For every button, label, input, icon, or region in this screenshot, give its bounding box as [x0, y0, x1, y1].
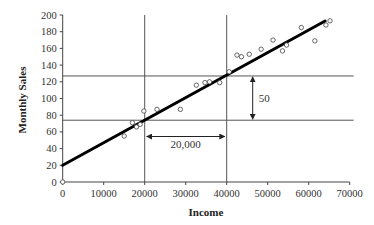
- data-point: [284, 43, 288, 47]
- data-point: [194, 83, 198, 87]
- y-tick-label: 160: [41, 43, 57, 54]
- y-axis-title: Monthly Sales: [16, 66, 28, 134]
- data-point: [239, 55, 243, 59]
- x-tick-label: 60000: [296, 188, 322, 199]
- annotation-label: 20,000: [171, 138, 202, 150]
- y-tick-label: 60: [46, 126, 57, 137]
- reference-lines: [63, 15, 354, 182]
- data-point: [122, 134, 126, 138]
- data-point: [280, 49, 284, 53]
- data-point: [247, 52, 251, 56]
- x-tick-label: 30000: [173, 188, 199, 199]
- y-tick-label: 0: [51, 177, 56, 188]
- data-point: [203, 80, 207, 84]
- data-point: [259, 47, 263, 51]
- data-point: [155, 107, 159, 111]
- data-point: [142, 109, 146, 113]
- x-tick-label: 0: [60, 188, 65, 199]
- data-point: [61, 180, 65, 184]
- y-tick-label: 180: [41, 26, 57, 37]
- y-tick-label: 20: [46, 160, 57, 171]
- data-point: [218, 80, 222, 84]
- tick-labels: 0204060801001201401601802000100002000030…: [41, 10, 363, 200]
- data-point: [328, 19, 332, 23]
- data-point: [313, 39, 317, 43]
- data-point: [207, 80, 211, 84]
- y-tick-label: 80: [46, 110, 57, 121]
- x-tick-label: 40000: [214, 188, 240, 199]
- data-point: [130, 121, 134, 125]
- x-tick-label: 50000: [255, 188, 281, 199]
- data-point: [235, 53, 239, 57]
- y-tick-label: 100: [41, 93, 57, 104]
- data-point: [227, 70, 231, 74]
- annotation-label: 50: [259, 92, 271, 104]
- x-axis-title: Income: [189, 206, 224, 218]
- y-tick-label: 200: [41, 10, 57, 21]
- axes: [60, 15, 350, 185]
- annotations: 20,00050: [147, 77, 271, 150]
- y-tick-label: 140: [41, 60, 57, 71]
- data-point: [271, 38, 275, 42]
- x-tick-label: 20000: [132, 188, 158, 199]
- data-point: [324, 23, 328, 27]
- scatter-chart: 0204060801001201401601802000100002000030…: [0, 0, 374, 225]
- data-point: [178, 107, 182, 111]
- y-tick-label: 120: [41, 76, 57, 87]
- x-tick-label: 70000: [337, 188, 363, 199]
- data-point: [138, 122, 142, 126]
- y-tick-label: 40: [46, 143, 57, 154]
- data-points: [61, 19, 333, 185]
- data-point: [299, 25, 303, 29]
- x-tick-label: 10000: [91, 188, 117, 199]
